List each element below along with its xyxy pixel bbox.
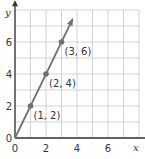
line-chart: 02460246 (1, 2)(2, 4)(3, 6) y x: [0, 0, 145, 159]
x-tick-label: 2: [43, 143, 49, 154]
y-axis-label: y: [4, 7, 11, 18]
tick-labels: 02460246: [6, 37, 111, 154]
x-tick-label: 6: [105, 143, 111, 154]
x-tick-label: 0: [12, 143, 18, 154]
point-label: (1, 2): [34, 110, 61, 121]
x-tick-label: 4: [74, 143, 80, 154]
point-label: (3, 6): [65, 46, 92, 57]
data-points: (1, 2)(2, 4)(3, 6): [28, 39, 92, 121]
y-tick-label: 0: [6, 133, 12, 144]
x-axis-label: x: [133, 142, 139, 153]
point-label: (2, 4): [49, 78, 76, 89]
axes: [12, 0, 145, 141]
data-point: [28, 103, 34, 109]
y-tick-label: 4: [6, 69, 12, 80]
y-tick-label: 6: [6, 37, 12, 48]
y-tick-label: 2: [6, 101, 12, 112]
data-point: [43, 71, 49, 77]
data-point: [59, 39, 65, 45]
